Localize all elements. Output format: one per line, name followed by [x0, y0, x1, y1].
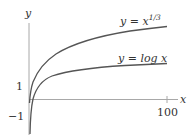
x-tick-label-100: 100 [157, 106, 178, 119]
curve-cube-root-label: y = x1/3 [119, 13, 161, 28]
x-axis-label: x [180, 93, 187, 106]
chart: y x 100 1 −1 y = x1/3 y = log x [0, 0, 195, 137]
curve-cube-root-label-base: y = x [119, 15, 149, 28]
curve-cube-root-label-exponent: 1/3 [149, 13, 161, 22]
y-axis-label: y [24, 7, 32, 20]
curve-log [30, 64, 167, 135]
y-tick-label-1: 1 [16, 80, 23, 93]
y-tick-label-neg1: −1 [8, 110, 24, 123]
curve-log-label: y = log x [117, 52, 168, 65]
